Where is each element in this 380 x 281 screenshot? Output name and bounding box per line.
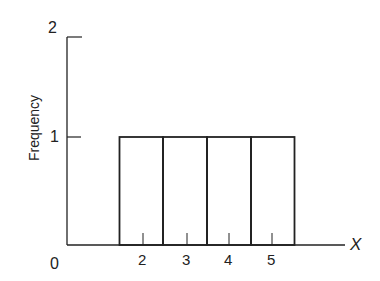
histogram-chart: 2 1 0 2 3 4 5 X Frequency	[0, 0, 380, 281]
y-axis-label: Frequency	[26, 95, 42, 161]
x-tick-label-4: 4	[224, 252, 232, 267]
bar-4	[207, 137, 251, 245]
y-tick-label-1: 1	[50, 129, 59, 145]
bar-3	[163, 137, 207, 245]
x-axis-label: X	[350, 236, 361, 253]
bar-2	[120, 137, 164, 245]
x-tick-label-3: 3	[182, 252, 190, 267]
y-tick-label-2: 2	[48, 20, 57, 36]
bars	[120, 137, 295, 245]
bar-5	[251, 137, 295, 245]
x-tick-label-5: 5	[267, 252, 275, 267]
x-tick-label-2: 2	[138, 252, 146, 267]
origin-label: 0	[50, 256, 59, 272]
